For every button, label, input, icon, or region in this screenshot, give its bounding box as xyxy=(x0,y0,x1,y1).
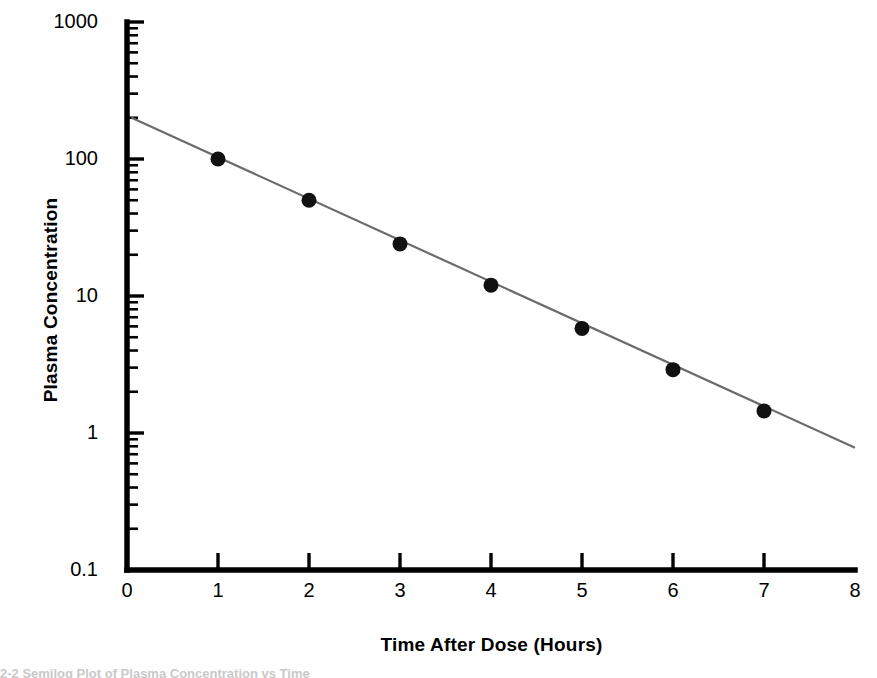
x-tick-label: 0 xyxy=(97,580,157,600)
data-point xyxy=(484,278,499,293)
data-point xyxy=(211,152,226,167)
x-tick-label: 3 xyxy=(370,580,430,600)
data-point xyxy=(302,193,317,208)
y-tick-label: 100 xyxy=(65,148,98,168)
data-point xyxy=(666,362,681,377)
x-tick-label: 1 xyxy=(188,580,248,600)
x-tick-label: 6 xyxy=(643,580,703,600)
y-tick-label: 10 xyxy=(76,285,98,305)
x-tick-label: 4 xyxy=(461,580,521,600)
data-point xyxy=(757,403,772,418)
y-tick-label: 1000 xyxy=(54,11,99,31)
data-point xyxy=(393,236,408,251)
plot-background xyxy=(0,0,877,678)
y-tick-label: 1 xyxy=(87,422,98,442)
x-tick-label: 8 xyxy=(825,580,877,600)
y-tick-label: 0.1 xyxy=(70,559,98,579)
y-axis-title: Plasma Concentration xyxy=(40,100,62,500)
cropped-caption-fragment: 2-2 Semilog Plot of Plasma Concentration… xyxy=(0,666,877,678)
data-point xyxy=(575,321,590,336)
x-tick-label: 7 xyxy=(734,580,794,600)
x-tick-label: 2 xyxy=(279,580,339,600)
semilog-plasma-concentration-figure: Plasma Concentration Time After Dose (Ho… xyxy=(0,0,877,678)
plot-canvas xyxy=(0,0,877,678)
x-axis-title: Time After Dose (Hours) xyxy=(127,634,856,656)
x-tick-label: 5 xyxy=(552,580,612,600)
